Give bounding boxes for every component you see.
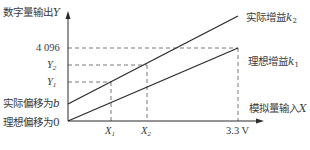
y-tick-y1: Y1 [47,77,56,89]
x-axis-label: 模拟量输入X [249,103,306,114]
x-tick-x2: X2 [141,126,151,138]
y-axis-label: 数字量输出Y [3,7,60,18]
x-tick-3v3: 3.3 V [226,126,249,137]
y-axis-arrow-icon [66,11,71,19]
x2-sub: 2 [147,130,151,138]
actual-gain-label: 实际增益k2 [246,12,297,25]
ideal-gain-sub: 1 [294,61,298,69]
y1-sub: 1 [53,81,57,89]
y-axis-var: Y [53,6,60,18]
ideal-offset-label: 理想偏移为0 [3,117,60,128]
y2-sub: 2 [53,64,57,72]
x1-sub: 1 [111,130,115,138]
y-tick-y2: Y2 [47,60,56,72]
x-axis-var: X [299,102,306,114]
actual-gain-text: 实际增益 [246,11,286,23]
y-tick-4096: 4 096 [36,43,60,54]
ideal-gain-label: 理想增益k1 [248,56,299,69]
ideal-gain-text: 理想增益 [248,55,288,67]
x-axis-label-text: 模拟量输入 [249,102,299,114]
actual-gain-sub: 2 [292,17,296,25]
actual-offset-label: 实际偏移为b [3,98,60,109]
actual-offset-text: 实际偏移为 [3,97,53,109]
actual-gain-line [68,16,238,104]
ideal-gain-line [68,48,238,121]
y-axis-label-text: 数字量输出 [3,6,53,18]
actual-offset-var: b [53,97,60,109]
x-axis-arrow-icon [256,119,264,124]
x-tick-x1: X1 [105,126,115,138]
